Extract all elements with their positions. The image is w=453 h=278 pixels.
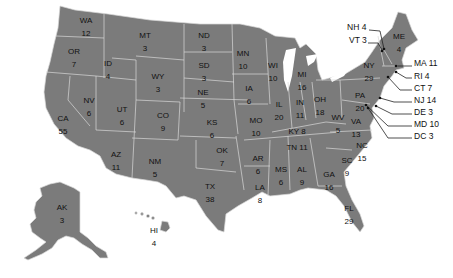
callout-de: DE 3 bbox=[414, 107, 433, 117]
callout-ri: RI 4 bbox=[414, 71, 430, 81]
callout-nj: NJ 14 bbox=[414, 95, 436, 105]
callout-nh: NH 4 bbox=[347, 22, 366, 32]
us-electoral-map bbox=[0, 0, 453, 278]
callout-vt: VT 3 bbox=[349, 35, 367, 45]
alaska-shape bbox=[24, 182, 108, 260]
callout-dc: DC 3 bbox=[414, 131, 433, 141]
callout-ma: MA 11 bbox=[414, 58, 437, 68]
callout-md: MD 10 bbox=[414, 119, 439, 129]
hawaii-shape bbox=[135, 212, 170, 232]
callout-ct: CT 7 bbox=[414, 83, 432, 93]
